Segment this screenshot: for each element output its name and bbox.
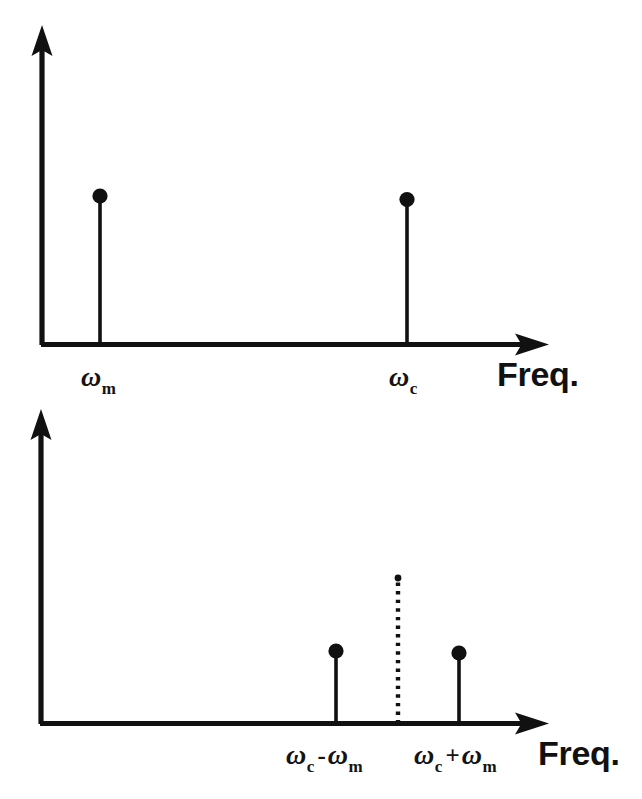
stem-lower-sideband xyxy=(328,643,343,723)
top-x-axis xyxy=(41,334,549,356)
top-x-axis-label: Freq. xyxy=(497,357,579,391)
stem-suppressed-carrier xyxy=(395,575,402,724)
tick-label-omega-m: ωm xyxy=(81,363,116,397)
bottom-y-axis xyxy=(31,409,52,724)
stem-modulating-tone xyxy=(92,188,107,344)
stem-marker-lower-sideband xyxy=(328,643,343,658)
plus-operator: + xyxy=(446,742,460,769)
stem-marker-suppressed-carrier xyxy=(395,575,402,582)
top-spectrum-chart xyxy=(32,25,550,356)
stem-marker-upper-sideband xyxy=(451,645,466,660)
tick-label-omega-c-minus-omega-m: ωc-ωm xyxy=(286,741,363,775)
bottom-x-axis xyxy=(40,713,549,735)
top-y-axis xyxy=(32,25,53,345)
omega-subscript-m: m xyxy=(349,757,363,776)
modulation-spectra-figure: ωm ωc Freq. ωc-ωm ωc+ωm Freq. xyxy=(0,0,642,799)
minus-operator: - xyxy=(318,742,326,769)
omega-subscript-c: c xyxy=(435,757,443,776)
stem-upper-sideband xyxy=(451,645,466,723)
stem-marker-modulating-tone xyxy=(92,188,107,203)
omega-symbol-2: ω xyxy=(328,739,348,770)
omega-subscript-m: m xyxy=(102,379,116,398)
bottom-x-axis-label: Freq. xyxy=(538,736,620,770)
omega-subscript-c: c xyxy=(307,757,315,776)
omega-symbol: ω xyxy=(414,739,434,770)
spectra-vector-canvas xyxy=(0,0,642,799)
tick-label-omega-c-plus-omega-m: ωc+ωm xyxy=(414,741,497,775)
omega-subscript-m: m xyxy=(483,757,497,776)
omega-symbol-2: ω xyxy=(462,739,482,770)
bottom-spectrum-chart xyxy=(31,409,550,735)
omega-subscript-c: c xyxy=(410,379,418,398)
omega-symbol: ω xyxy=(389,361,409,392)
stem-carrier-tone xyxy=(399,192,414,345)
omega-symbol: ω xyxy=(286,739,306,770)
stem-marker-carrier-tone xyxy=(399,192,414,207)
omega-symbol: ω xyxy=(81,361,101,392)
tick-label-omega-c: ωc xyxy=(389,363,418,397)
